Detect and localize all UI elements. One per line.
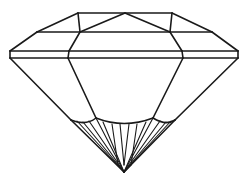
pavilion-fan	[77, 118, 171, 172]
girdle	[10, 51, 238, 58]
crown-table	[37, 13, 212, 32]
diamond-diagram: diamond-cut gemstone side profile	[0, 0, 246, 187]
culet	[123, 171, 125, 173]
diamond-icon	[0, 0, 246, 187]
crown-bezel	[10, 32, 238, 51]
pavilion	[10, 58, 238, 172]
